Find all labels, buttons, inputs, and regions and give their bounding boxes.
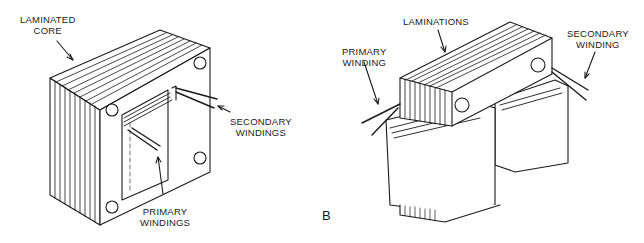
label-line: LAMINATED <box>20 14 75 25</box>
label-secondary-windings: SECONDARY WINDINGS <box>230 116 292 138</box>
label-line: PRIMARY <box>140 206 190 217</box>
label-line: PRIMARY <box>342 46 387 57</box>
label-line: SECONDARY <box>567 28 629 39</box>
label-line: WINDINGS <box>140 217 190 228</box>
label-primary-windings: PRIMARY WINDINGS <box>140 206 190 228</box>
label-line: WINDING <box>342 57 387 68</box>
label-line: WINDING <box>567 39 629 50</box>
label-laminations: LAMINATIONS <box>403 16 469 27</box>
label-secondary-winding: SECONDARY WINDING <box>567 28 629 50</box>
figure-a-transformer <box>50 30 230 225</box>
label-line: WINDINGS <box>230 127 292 138</box>
label-line: CORE <box>20 25 75 36</box>
label-primary-winding: PRIMARY WINDING <box>342 46 387 68</box>
figure-b-transformer <box>362 22 595 222</box>
label-laminated-core: LAMINATED CORE <box>20 14 75 36</box>
panel-label-b: B <box>322 208 331 223</box>
transformer-diagram <box>0 0 644 243</box>
label-line: SECONDARY <box>230 116 292 127</box>
label-line: LAMINATIONS <box>403 16 469 27</box>
